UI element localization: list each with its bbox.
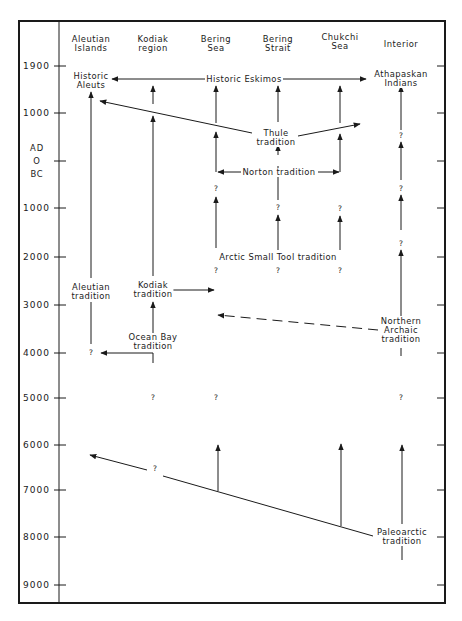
column-header-kodiak: Kodiak region bbox=[138, 35, 169, 53]
right-ticks bbox=[437, 66, 446, 585]
tick-label-5000: 5000 bbox=[12, 393, 50, 403]
label-northern-archaic-tradition: Northern Archaic tradition bbox=[380, 317, 422, 344]
uncertain-marker: ? bbox=[214, 267, 218, 275]
label-ocean-bay-tradition: Ocean Bay tradition bbox=[128, 333, 179, 351]
label-athapaskan-indians: Athapaskan Indians bbox=[373, 70, 428, 88]
label-historic-aleuts: Historic Aleuts bbox=[73, 72, 110, 90]
era-label-bc: BC bbox=[27, 168, 47, 180]
uncertain-marker: ? bbox=[214, 394, 218, 402]
tick-label-7000: 7000 bbox=[12, 485, 50, 495]
uncertain-marker: ? bbox=[214, 185, 218, 193]
tick-label-3000: 3000 bbox=[12, 300, 50, 310]
label-arctic-small-tool: Arctic Small Tool tradition bbox=[218, 253, 338, 262]
era-label-ad: AD bbox=[27, 142, 47, 154]
era-label-zero: O bbox=[27, 155, 47, 167]
uncertain-marker: ? bbox=[153, 465, 157, 473]
uncertain-marker: ? bbox=[276, 267, 280, 275]
uncertain-marker: ? bbox=[338, 205, 342, 213]
label-thule-tradition: Thule tradition bbox=[255, 129, 296, 147]
label-aleutian-tradition: Aleutian tradition bbox=[70, 283, 111, 301]
column-header-bering-strait: Bering Strait bbox=[263, 35, 293, 53]
paleoarctic-to-aleutian-arrow bbox=[90, 455, 147, 470]
thule-arrow-right bbox=[298, 124, 360, 136]
column-header-aleutian: Aleutian Islands bbox=[72, 35, 111, 53]
tick-label-4000: 4000 bbox=[12, 348, 50, 358]
thule-arrow-left bbox=[100, 101, 252, 133]
label-paleoarctic-tradition: Paleoarctic tradition bbox=[376, 528, 428, 546]
uncertain-marker: ? bbox=[399, 185, 403, 193]
uncertain-marker: ? bbox=[151, 394, 155, 402]
tick-label-1900: 1900 bbox=[12, 61, 50, 71]
column-header-bering-sea: Bering Sea bbox=[201, 35, 231, 53]
column-header-interior: Interior bbox=[384, 40, 419, 49]
uncertain-marker: ? bbox=[399, 240, 403, 248]
tick-label-6000: 6000 bbox=[12, 440, 50, 450]
uncertain-marker: ? bbox=[89, 349, 93, 357]
uncertain-marker: ? bbox=[276, 204, 280, 212]
ocean-bay-to-aleutian-arrow bbox=[101, 353, 153, 363]
uncertain-marker: ? bbox=[399, 394, 403, 402]
label-historic-eskimos: Historic Eskimos bbox=[205, 75, 282, 84]
tick-label-9000: 9000 bbox=[12, 580, 50, 590]
tick-label-2000: 2000 bbox=[12, 252, 50, 262]
uncertain-marker: ? bbox=[338, 267, 342, 275]
label-norton-tradition: Norton tradition bbox=[241, 168, 316, 177]
tick-label-1000-bc: 1000 bbox=[12, 203, 50, 213]
label-kodiak-tradition: Kodiak tradition bbox=[132, 281, 173, 299]
left-ticks bbox=[54, 66, 66, 585]
tick-label-8000: 8000 bbox=[12, 532, 50, 542]
northern-archaic-dashed-arrow bbox=[218, 315, 378, 330]
column-header-chukchi: Chukchi Sea bbox=[321, 33, 358, 51]
uncertain-marker: ? bbox=[399, 132, 403, 140]
tick-label-1000-ad: 1000 bbox=[12, 108, 50, 118]
